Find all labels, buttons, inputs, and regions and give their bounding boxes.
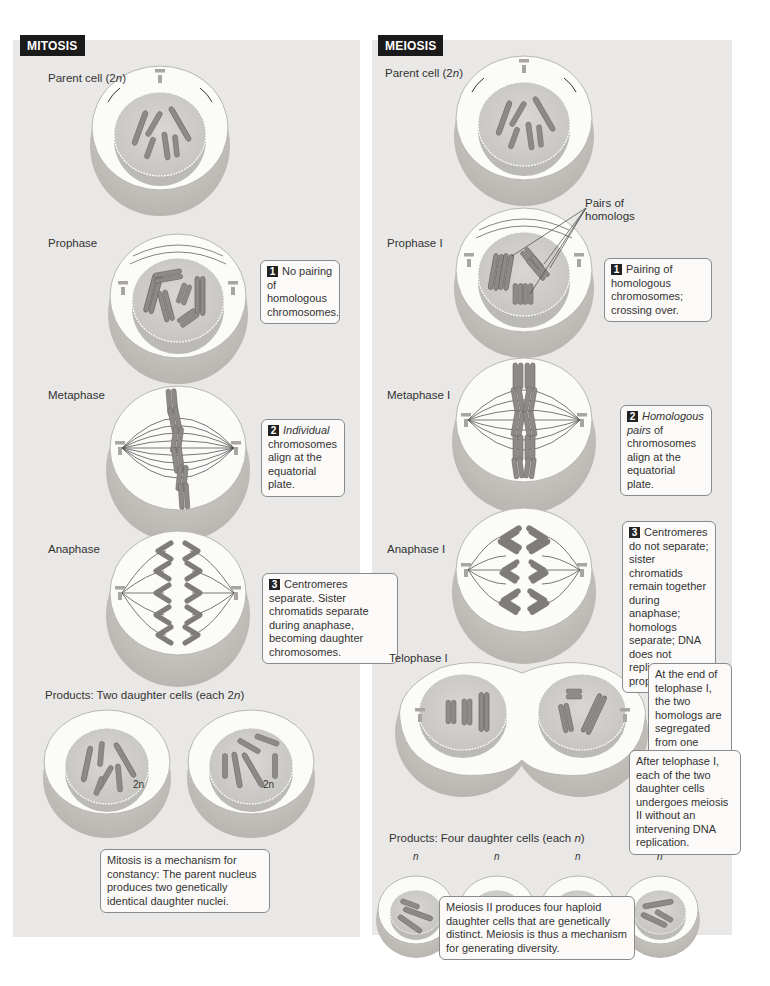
meiosis-daughter-1-ploidy: n	[413, 851, 419, 862]
meiosis-daughter-3-ploidy: n	[575, 851, 581, 862]
mitosis-anaphase-cell	[106, 531, 250, 687]
meiosis-parent-cell-label: Parent cell (2n)	[385, 67, 463, 79]
meiosis-prophase-i-cell	[454, 208, 594, 358]
meiosis-products-label: Products: Four daughter cells (each n)	[389, 832, 585, 844]
meiosis-prophase-i-label: Prophase I	[387, 237, 443, 249]
mitosis-daughter-1-ploidy: 2n	[133, 779, 144, 790]
mitosis-daughter-cell-2	[187, 710, 315, 838]
mitosis-metaphase-note: 2Individual chromosomes align at the equ…	[261, 419, 345, 497]
mitosis-summary-note: Mitosis is a mechanism for constancy: Th…	[100, 849, 270, 913]
meiosis-heading-tag: MEIOSIS	[378, 35, 443, 56]
mitosis-prophase-label: Prophase	[48, 237, 97, 249]
mitosis-metaphase-cell	[106, 386, 250, 542]
mitosis-prophase-cell	[108, 234, 248, 384]
meiosis-metaphase-i-cell	[452, 358, 596, 514]
mitosis-metaphase-label: Metaphase	[48, 389, 105, 401]
meiosis-prophase-i-note: 1Pairing of homologous chromosomes; cros…	[604, 258, 712, 322]
mitosis-anaphase-note: 3Centromeres separate. Sister chromatids…	[262, 573, 398, 664]
mitosis-prophase-note: 1No pairing of homologous chromosomes.	[260, 260, 340, 324]
mitosis-parent-cell-label: Parent cell (2n)	[48, 72, 126, 84]
meiosis-anaphase-i-label: Anaphase I	[387, 543, 445, 555]
mitosis-daughter-2-ploidy: 2n	[263, 779, 274, 790]
meiosis-daughter-2-ploidy: n	[494, 851, 500, 862]
meiosis-after-telophase-note: After telophase I, each of the two daugh…	[629, 750, 741, 855]
meiosis-anaphase-i-cell	[452, 508, 596, 664]
meiosis-metaphase-i-label: Metaphase I	[387, 389, 450, 401]
mitosis-products-label: Products: Two daughter cells (each 2n)	[45, 689, 244, 701]
meiosis-telophase-i-cell	[395, 663, 648, 797]
meiosis-summary-note: Meiosis II produces four haploid daughte…	[439, 896, 635, 960]
mitosis-heading-tag: MITOSIS	[20, 35, 85, 56]
mitosis-daughter-cell-1	[43, 710, 171, 838]
meiosis-metaphase-i-note: 2Homologous pairs of chromosomes align a…	[620, 405, 712, 496]
mitosis-anaphase-label: Anaphase	[48, 543, 100, 555]
meiosis-parent-cell	[454, 56, 594, 206]
pairs-of-homologs-callout: Pairs of homologs	[585, 197, 645, 223]
meiosis-telophase-i-label: Telophase I	[389, 652, 448, 664]
mitosis-parent-cell	[90, 66, 230, 216]
